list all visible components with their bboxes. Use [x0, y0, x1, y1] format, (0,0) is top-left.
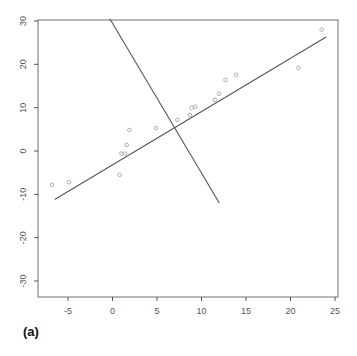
data-point — [128, 128, 132, 132]
y-tick-label: 30 — [18, 16, 28, 26]
x-tick-label: -5 — [64, 306, 72, 316]
y-tick-label: 20 — [18, 59, 28, 69]
data-point — [213, 98, 217, 102]
y-tick-label: -30 — [18, 274, 28, 287]
data-point — [125, 143, 129, 147]
data-point — [118, 173, 122, 177]
data-points — [50, 28, 323, 187]
data-point — [120, 152, 124, 156]
y-tick-label: -10 — [18, 188, 28, 201]
data-point — [190, 106, 194, 110]
y-axis: -30-20-100102030 — [18, 16, 38, 288]
data-point — [320, 28, 324, 32]
x-axis: -50510152025 — [64, 297, 340, 316]
data-point — [123, 152, 127, 156]
plot-border — [38, 20, 338, 297]
fit-lines — [55, 19, 326, 203]
data-point — [50, 183, 54, 187]
plot-frame — [38, 20, 338, 297]
data-point — [188, 113, 192, 117]
data-point — [67, 180, 71, 184]
y-tick-label: -20 — [18, 231, 28, 244]
x-tick-label: 25 — [330, 306, 340, 316]
data-point — [218, 92, 222, 96]
y-tick-label: 10 — [18, 103, 28, 113]
y-tick-label: 0 — [18, 148, 28, 153]
panel-label: (a) — [23, 324, 39, 339]
x-tick-label: 0 — [110, 306, 115, 316]
data-point — [224, 78, 228, 82]
principal-axis-line — [55, 37, 326, 200]
x-tick-label: 10 — [196, 306, 206, 316]
x-tick-label: 20 — [285, 306, 295, 316]
x-tick-label: 5 — [154, 306, 159, 316]
data-point — [234, 73, 238, 77]
data-point — [193, 105, 197, 109]
data-point — [176, 118, 180, 122]
data-point — [154, 126, 158, 130]
x-tick-label: 15 — [241, 306, 251, 316]
data-point — [297, 66, 301, 70]
scatter-chart: -50510152025 -30-20-100102030 — [0, 0, 357, 356]
